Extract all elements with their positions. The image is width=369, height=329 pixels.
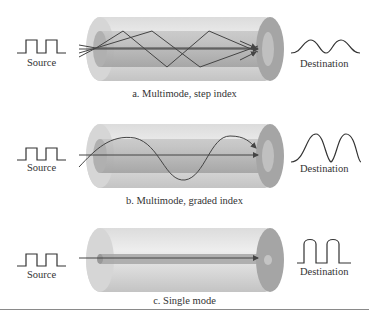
panel-single-mode: Source Destination c. Single mode — [0, 220, 369, 309]
source-square-wave — [17, 40, 66, 53]
source-label: Source — [27, 57, 56, 68]
destination-pulse — [291, 40, 360, 53]
source-square-wave — [17, 148, 66, 160]
panel-caption: b. Multimode, graded index — [0, 195, 369, 206]
destination-pulse — [297, 240, 351, 264]
panel-multimode-step-index: Source Destination a. Multimode, step in… — [0, 0, 369, 105]
panel-caption: a. Multimode, step index — [0, 88, 369, 99]
destination-pulse — [291, 134, 361, 162]
bottom-divider — [0, 309, 369, 310]
destination-label: Destination — [300, 163, 348, 174]
destination-label: Destination — [300, 266, 348, 277]
destination-label: Destination — [300, 58, 348, 69]
source-square-wave — [17, 254, 66, 266]
source-label: Source — [27, 269, 56, 280]
panel-caption: c. Single mode — [0, 295, 369, 306]
panel-multimode-graded-index: Source Destination b. Multimode, graded … — [0, 110, 369, 215]
source-label: Source — [27, 162, 56, 173]
